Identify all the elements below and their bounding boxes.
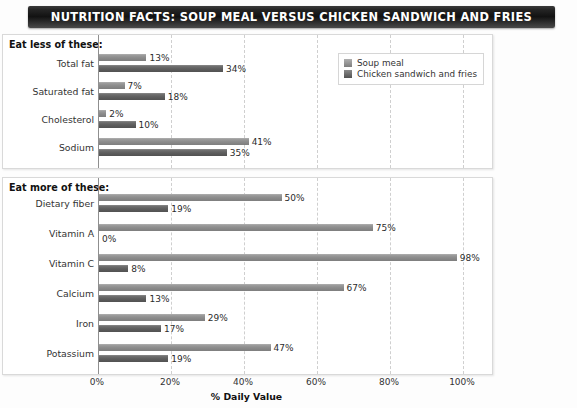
category-label: Dietary fiber xyxy=(36,199,94,208)
bar-value-label: 47% xyxy=(274,343,294,352)
bar-soup-meal: 41% xyxy=(99,138,249,145)
bar-chicken-sandwich: 10% xyxy=(99,121,136,128)
x-tick-label: 80% xyxy=(379,377,399,387)
category-label: Cholesterol xyxy=(42,115,94,124)
bar-value-label: 67% xyxy=(347,283,367,292)
category-label: Total fat xyxy=(57,59,94,68)
chart-row: Potassium47%19% xyxy=(3,344,492,362)
bar-value-label: 75% xyxy=(376,223,396,232)
chart-row: Dietary fiber50%19% xyxy=(3,194,492,212)
bar-value-label: 35% xyxy=(230,148,250,157)
chart-row: Cholesterol2%10% xyxy=(3,110,492,128)
bar-value-label: 13% xyxy=(149,294,169,303)
bar-chicken-sandwich: 19% xyxy=(99,355,168,362)
legend-swatch-icon-soup-meal xyxy=(344,59,352,67)
chart-row: Iron29%17% xyxy=(3,314,492,332)
bar-chicken-sandwich: 13% xyxy=(99,295,146,302)
bar-value-label: 34% xyxy=(226,64,246,73)
bar-soup-meal: 29% xyxy=(99,314,205,321)
chart-legend: Soup meal Chicken sandwich and fries xyxy=(338,53,484,85)
bar-value-label: 17% xyxy=(164,324,184,333)
row-bars: Potassium47%19% xyxy=(99,344,492,362)
chart-title-bar: NUTRITION FACTS: SOUP MEAL VERSUS CHICKE… xyxy=(28,6,555,28)
x-tick-label: 60% xyxy=(306,377,326,387)
legend-label-soup-meal: Soup meal xyxy=(357,58,404,68)
bar-soup-meal: 50% xyxy=(99,194,282,201)
bar-value-label: 8% xyxy=(131,264,145,273)
legend-label-chicken-sandwich: Chicken sandwich and fries xyxy=(357,69,477,79)
legend-swatch-icon-chicken-sandwich xyxy=(344,70,352,78)
bar-value-label: 2% xyxy=(109,109,123,118)
bar-soup-meal: 13% xyxy=(99,54,146,61)
panel-eat-more: Eat more of these: Dietary fiber50%19%Vi… xyxy=(2,177,493,375)
row-bars: Sodium41%35% xyxy=(99,138,492,156)
bar-value-label: 7% xyxy=(128,81,142,90)
category-label: Vitamin C xyxy=(49,259,94,268)
chart-page: NUTRITION FACTS: SOUP MEAL VERSUS CHICKE… xyxy=(0,0,577,408)
category-label: Saturated fat xyxy=(33,87,95,96)
bar-value-label: 29% xyxy=(208,313,228,322)
row-bars: Calcium67%13% xyxy=(99,284,492,302)
legend-item-chicken-sandwich: Chicken sandwich and fries xyxy=(344,69,477,79)
bar-value-label: 0% xyxy=(102,235,116,244)
bar-soup-meal: 67% xyxy=(99,284,344,291)
bar-soup-meal: 47% xyxy=(99,344,271,351)
bar-chicken-sandwich: 19% xyxy=(99,205,168,212)
x-tick-label: 20% xyxy=(160,377,180,387)
category-label: Potassium xyxy=(46,349,94,358)
bar-chicken-sandwich: 17% xyxy=(99,325,161,332)
bar-soup-meal: 2% xyxy=(99,110,106,117)
bar-value-label: 10% xyxy=(139,120,159,129)
row-bars: Iron29%17% xyxy=(99,314,492,332)
row-bars: Vitamin A75%0% xyxy=(99,224,492,242)
bar-soup-meal: 98% xyxy=(99,254,457,261)
x-tick-label: 40% xyxy=(233,377,253,387)
x-tick-label: 0% xyxy=(90,377,104,387)
bar-value-label: 98% xyxy=(460,253,480,262)
plot-area-eat-more: Dietary fiber50%19%Vitamin A75%0%Vitamin… xyxy=(3,178,492,374)
bar-value-label: 13% xyxy=(149,53,169,62)
bar-soup-meal: 75% xyxy=(99,224,373,231)
bar-chicken-sandwich: 18% xyxy=(99,93,165,100)
bar-value-label: 50% xyxy=(285,193,305,202)
bar-value-label: 19% xyxy=(171,204,191,213)
bar-chicken-sandwich: 8% xyxy=(99,265,128,272)
bar-value-label: 18% xyxy=(168,92,188,101)
x-axis-title: % Daily Value xyxy=(2,391,491,402)
chart-row: Sodium41%35% xyxy=(3,138,492,156)
chart-row: Vitamin C98%8% xyxy=(3,254,492,272)
x-axis: 0%20%40%60%80%100% % Daily Value xyxy=(2,373,491,408)
bar-chicken-sandwich: 35% xyxy=(99,149,227,156)
category-label: Iron xyxy=(76,319,94,328)
x-tick-label: 100% xyxy=(449,377,475,387)
chart-row: Vitamin A75%0% xyxy=(3,224,492,242)
panel-eat-less: Eat less of these: Total fat13%34%Satura… xyxy=(2,34,493,169)
category-label: Calcium xyxy=(57,289,94,298)
category-label: Sodium xyxy=(59,143,94,152)
row-bars: Dietary fiber50%19% xyxy=(99,194,492,212)
row-bars: Cholesterol2%10% xyxy=(99,110,492,128)
bar-value-label: 19% xyxy=(171,354,191,363)
page-title: NUTRITION FACTS: SOUP MEAL VERSUS CHICKE… xyxy=(51,10,532,24)
row-bars: Vitamin C98%8% xyxy=(99,254,492,272)
bar-soup-meal: 7% xyxy=(99,82,125,89)
category-label: Vitamin A xyxy=(49,229,94,238)
chart-row: Calcium67%13% xyxy=(3,284,492,302)
bar-chicken-sandwich: 34% xyxy=(99,65,223,72)
legend-item-soup-meal: Soup meal xyxy=(344,58,477,68)
bar-value-label: 41% xyxy=(252,137,272,146)
